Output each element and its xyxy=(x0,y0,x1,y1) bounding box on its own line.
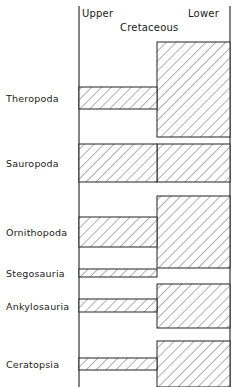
bar-segment-upper xyxy=(79,217,157,247)
bars-layer xyxy=(79,42,230,387)
chart-plot-area xyxy=(0,0,236,387)
taxon-label-ornithopoda: Ornithopoda xyxy=(6,227,67,238)
bar-segment-lower xyxy=(157,42,230,137)
bar-group xyxy=(79,196,230,268)
taxon-label-sauropoda: Sauropoda xyxy=(6,158,59,169)
bar-segment-upper xyxy=(79,269,157,277)
bar-segment-upper xyxy=(79,358,157,370)
header-period-cretaceous: Cretaceous xyxy=(120,22,178,33)
bar-group xyxy=(79,42,230,137)
bar-segment-upper xyxy=(79,144,157,182)
bar-group xyxy=(79,269,157,277)
bar-segment-lower xyxy=(157,341,230,387)
taxon-label-ceratopsia: Ceratopsia xyxy=(6,359,59,370)
cretaceous-dinosaur-range-chart: Upper Lower Cretaceous TheropodaSauropod… xyxy=(0,0,236,387)
bar-group xyxy=(79,341,230,387)
bar-segment-lower xyxy=(157,144,230,182)
bar-group xyxy=(79,144,230,182)
bar-group xyxy=(79,284,230,328)
bar-segment-upper xyxy=(79,87,157,109)
taxon-label-ankylosauria: Ankylosauria xyxy=(6,301,69,312)
header-lower-cretaceous: Lower xyxy=(188,8,219,19)
taxon-label-stegosauria: Stegosauria xyxy=(6,268,65,279)
taxon-label-theropoda: Theropoda xyxy=(6,93,59,104)
bar-segment-upper xyxy=(79,299,157,312)
bar-segment-lower xyxy=(157,196,230,268)
header-upper-cretaceous: Upper xyxy=(82,8,113,19)
bar-segment-lower xyxy=(157,284,230,328)
